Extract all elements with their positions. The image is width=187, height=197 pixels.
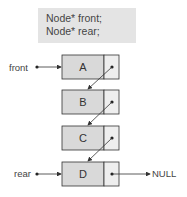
node-d: D <box>62 162 119 186</box>
null-label: NULL <box>152 168 176 179</box>
node-b-value: B <box>79 96 86 108</box>
node-c: C <box>62 126 119 150</box>
node-d-value: D <box>79 168 87 180</box>
node-a-value: A <box>79 61 87 73</box>
node-c-value: C <box>79 132 87 144</box>
rear-label: rear <box>14 168 31 179</box>
front-label: front <box>9 62 28 73</box>
node-b: B <box>62 90 119 114</box>
node-a: A <box>62 55 119 79</box>
linked-list-diagram: A B C D front rear NULL <box>0 0 187 197</box>
